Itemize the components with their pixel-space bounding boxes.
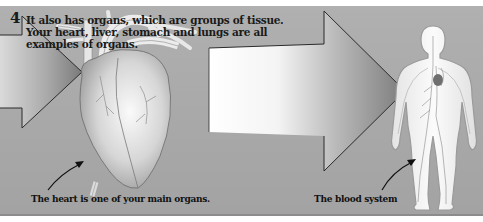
step-number: 4 <box>10 12 20 24</box>
blood-system-caption: The blood system <box>314 194 397 204</box>
heading-text: It also has organs, which are groups of … <box>10 14 290 50</box>
heart-caption: The heart is one of your main organs. <box>31 194 210 204</box>
human-body-blood-system-illustration <box>382 26 477 210</box>
panel-heading: 4 It also has organs, which are groups o… <box>10 14 290 50</box>
illustration-panel: 4 It also has organs, which are groups o… <box>0 6 483 216</box>
